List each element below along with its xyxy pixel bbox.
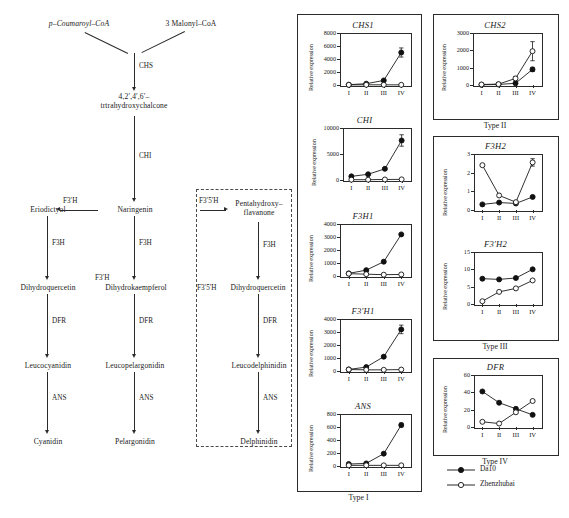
pathway-enzyme-f3ph-b: F3′H <box>95 274 109 282</box>
pathway-enzyme-f3p5ph-b: F3′5′H <box>197 284 217 292</box>
pathway-edge-coumaroyl-to-chs <box>85 32 129 54</box>
type-label-1: Type I <box>297 493 420 502</box>
pathway-enzyme-ans-left: ANS <box>52 394 66 402</box>
pathway-edge-ans-right <box>258 372 259 432</box>
pathway-node-leucopelargonidin: Leucopelargonidin <box>87 362 183 371</box>
pathway-edge-dfr-mid <box>134 294 135 356</box>
panel-type-1 <box>297 14 422 492</box>
pathway-arrow-f3h-mid <box>132 276 136 280</box>
pathway-node-leucocyanidin: Leucocyanidin <box>8 362 88 371</box>
type-label-3: Type III <box>433 342 557 351</box>
pathway-node-leucodelphinidin: Leucodelphinidin <box>213 362 305 371</box>
pathway-dashed-region <box>196 189 292 447</box>
pathway-edge-f3h-mid <box>134 216 135 278</box>
flavonoid-pathway-diagram: p–Coumaroyl–CoA 3 Malonyl–CoA CHS 4,2′,4… <box>0 0 290 500</box>
pathway-arrow-chs <box>132 87 136 91</box>
panel-type-4 <box>433 358 559 456</box>
pathway-edge-f3h-left <box>47 216 48 278</box>
pathway-node-malonyl: 3 Malonyl–CoA <box>136 20 246 29</box>
pathway-edge-naringenin-to-pentahydroxy <box>200 210 226 211</box>
pathway-arrow-ans-right <box>256 430 260 434</box>
pathway-node-delphinidin: Delphinidin <box>223 438 295 447</box>
pathway-enzyme-dfr-left: DFR <box>52 317 66 325</box>
pathway-enzyme-dfr-right: DFR <box>263 317 277 325</box>
pathway-node-p-coumaroyl: p–Coumaroyl–CoA <box>24 20 134 29</box>
pathway-arrow-dfr-mid <box>132 354 136 358</box>
legend-label-Da10: Da10 <box>480 464 496 473</box>
pathway-edge-chs <box>134 53 135 89</box>
panel-type-2 <box>433 14 559 120</box>
pathway-arrow-ans-mid <box>132 430 136 434</box>
pathway-enzyme-chs: CHS <box>139 62 153 70</box>
pathway-arrow-f3h-left <box>45 276 49 280</box>
pathway-enzyme-f3ph-a: F3′H <box>63 197 77 205</box>
pathway-arrow-to-eriodictyol <box>56 207 60 211</box>
pathway-edge-ans-left <box>47 372 48 432</box>
pathway-node-dihydroquercetin-left: Dihydroquercetin <box>3 284 93 293</box>
pathway-node-pelargonidin: Pelargonidin <box>99 438 171 447</box>
pathway-arrow-to-pentahydroxy <box>224 207 228 211</box>
pathway-edge-chi <box>134 116 135 200</box>
filled-circle-icon <box>446 465 476 475</box>
pathway-enzyme-f3h-mid: F3H <box>139 239 152 247</box>
panel-type-3 <box>433 136 559 341</box>
pathway-enzyme-chi: CHI <box>139 152 151 160</box>
pathway-arrow-f3h-right <box>256 276 260 280</box>
open-circle-icon <box>446 480 476 490</box>
pathway-node-dihydroquercetin-right: Dihydroquercetin <box>212 284 304 293</box>
pathway-node-cyanidin: Cyanidin <box>13 438 83 447</box>
pathway-arrow-dfr-right <box>256 354 260 358</box>
pathway-arrow-ans-left <box>45 430 49 434</box>
pathway-enzyme-f3h-right: F3H <box>263 241 276 249</box>
pathway-node-pentahydroxyflavanone: Pentahydroxy– flavanone <box>228 200 290 217</box>
pathway-edge-dfr-left <box>47 294 48 356</box>
pathway-node-pentahydroxyflavanone-line2: flavanone <box>244 208 275 217</box>
pathway-edge-dfr-right <box>258 294 259 356</box>
pathway-enzyme-ans-right: ANS <box>263 394 277 402</box>
pathway-enzyme-dfr-mid: DFR <box>139 317 153 325</box>
pathway-enzyme-f3h-left: F3H <box>52 239 65 247</box>
pathway-edge-malonyl-to-chs <box>141 31 185 53</box>
pathway-node-chalcone: 4,2′,4′,6′– trtrahydroxychalcone <box>74 93 194 110</box>
pathway-edge-f3h-right <box>258 222 259 278</box>
pathway-enzyme-f3p5ph-a: F3′5′H <box>199 197 219 205</box>
pathway-arrow-chi <box>132 198 136 202</box>
pathway-node-dihydrokaempferol: Dihydrokaempferol <box>88 284 184 293</box>
legend-label-Zhenzhubai: Zhenzhubai <box>480 479 515 488</box>
type-label-2: Type II <box>433 121 557 130</box>
pathway-arrow-dfr-left <box>45 354 49 358</box>
pathway-edge-ans-mid <box>134 372 135 432</box>
pathway-enzyme-ans-mid: ANS <box>139 394 153 402</box>
chart-legend: Da10Zhenzhubai <box>446 468 566 502</box>
pathway-node-chalcone-line2: trtrahydroxychalcone <box>101 101 168 110</box>
pathway-node-p-coumaroyl-label: p–Coumaroyl–CoA <box>49 19 109 28</box>
pathway-node-naringenin: Naringenin <box>98 206 172 215</box>
pathway-edge-naringenin-to-eriodictyol <box>60 210 98 211</box>
